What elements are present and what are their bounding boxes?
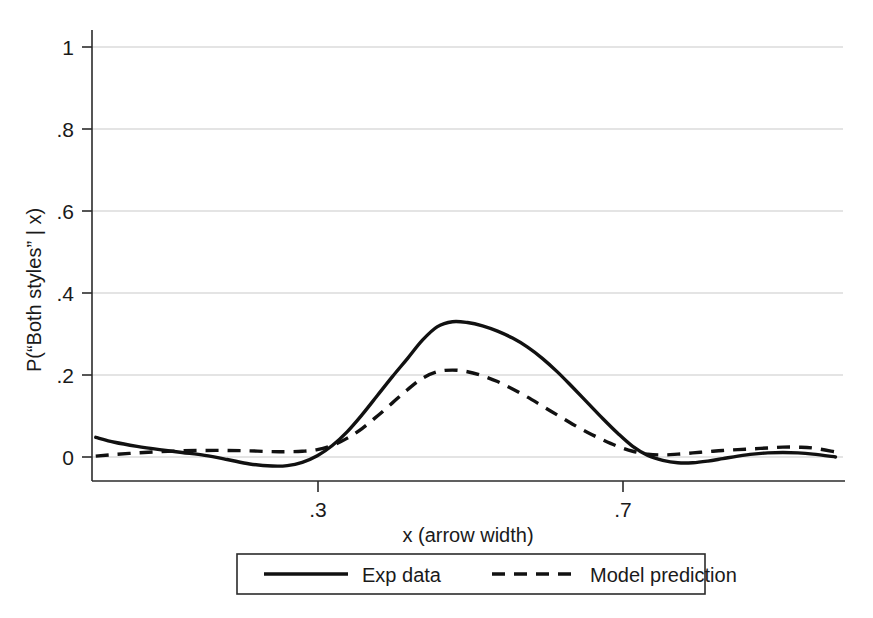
legend-label-exp-data: Exp data [362,564,442,586]
y-tick-label-1: 1 [62,36,74,59]
legend-label-model-prediction: Model prediction [590,564,737,586]
chart-figure: 1 .8 .6 .4 .2 0 .3 .7 P(“Both styles” | … [0,0,873,618]
y-tick-label-0.2: .2 [56,364,74,387]
y-tick-label-0: 0 [62,446,74,469]
y-tick-label-0.6: .6 [56,200,74,223]
y-tick-label-0.8: .8 [56,118,74,141]
chart-svg: 1 .8 .6 .4 .2 0 .3 .7 P(“Both styles” | … [0,0,873,618]
x-axis-title: x (arrow width) [402,524,533,546]
y-tick-label-0.4: .4 [56,282,74,305]
x-tick-label-0.7: .7 [614,498,632,521]
x-tick-label-0.3: .3 [309,498,327,521]
y-axis-title: P(“Both styles” | x) [23,208,45,372]
